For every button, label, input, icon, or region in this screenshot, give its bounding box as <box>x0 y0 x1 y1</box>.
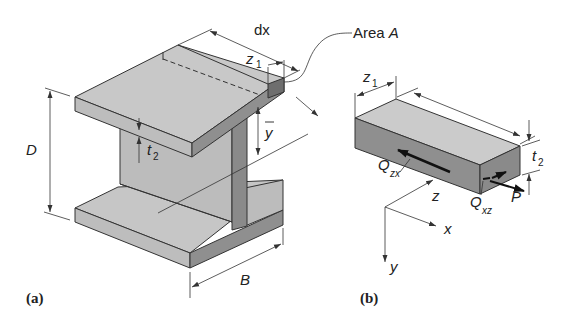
element-panel-b: Q zx Q xz P z 1 t <box>355 68 544 307</box>
qzx-label: Q <box>378 156 390 173</box>
y-axis-label: y <box>389 258 399 275</box>
svg-text:1: 1 <box>256 59 262 70</box>
x-axis-label: x <box>443 220 452 237</box>
area-a-callout: Area A <box>284 24 399 82</box>
z1-label-a: z <box>245 50 254 67</box>
coordinate-axes: z x y <box>385 180 452 275</box>
ybar-dimension: y <box>258 107 274 155</box>
x-axis <box>385 207 436 226</box>
qxz-label: Q <box>470 193 482 210</box>
svg-text:2: 2 <box>538 157 544 168</box>
area-a-label: Area A <box>353 24 399 41</box>
ybar-label: y <box>264 124 274 141</box>
svg-text:2: 2 <box>153 151 159 162</box>
b-label: B <box>240 271 250 288</box>
svg-text:1: 1 <box>372 78 378 89</box>
t2-label-b: t <box>532 147 537 164</box>
t2-dimension-b: t 2 <box>522 120 544 195</box>
z-axis <box>385 180 433 207</box>
caption-a: (a) <box>26 290 44 307</box>
svg-text:zx: zx <box>389 168 401 179</box>
x-direction-arrow <box>296 97 318 116</box>
p-label: P <box>511 188 521 205</box>
caption-b: (b) <box>360 290 378 307</box>
z-axis-label: z <box>431 187 440 204</box>
d-dimension: D <box>26 88 70 220</box>
dx-label: dx <box>254 21 270 38</box>
z1-label-b: z <box>362 68 371 85</box>
d-label: D <box>26 141 37 158</box>
i-beam-shear-flow-diagram: dx z 1 Area A D t 2 <box>0 0 569 323</box>
svg-text:xz: xz <box>481 205 492 216</box>
i-beam-panel-a: dx z 1 Area A D t 2 <box>26 21 399 307</box>
